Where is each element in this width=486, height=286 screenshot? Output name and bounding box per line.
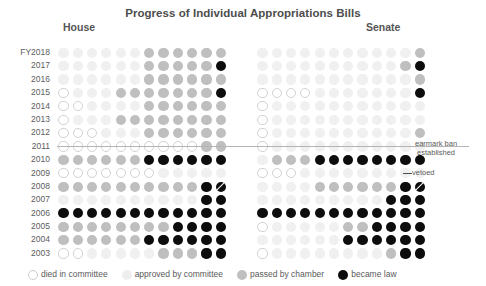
bill-cell[interactable] — [299, 233, 313, 246]
bill-cell[interactable] — [299, 153, 313, 166]
bill-cell[interactable] — [313, 207, 327, 220]
bill-cell[interactable] — [370, 207, 384, 220]
bill-cell[interactable] — [143, 247, 157, 260]
bill-cell[interactable] — [186, 86, 200, 99]
bill-cell[interactable] — [200, 153, 214, 166]
bill-cell[interactable] — [157, 46, 171, 59]
bill-cell[interactable] — [157, 220, 171, 233]
bill-cell[interactable] — [171, 193, 185, 206]
bill-cell[interactable] — [356, 86, 370, 99]
bill-cell[interactable] — [313, 113, 327, 126]
bill-cell[interactable] — [71, 193, 85, 206]
bill-cell[interactable] — [256, 86, 270, 99]
bill-cell[interactable] — [342, 126, 356, 139]
bill-cell[interactable] — [385, 73, 399, 86]
bill-cell[interactable] — [128, 207, 142, 220]
bill-cell[interactable] — [157, 153, 171, 166]
bill-cell[interactable] — [57, 46, 71, 59]
bill-cell[interactable] — [270, 153, 284, 166]
bill-cell[interactable] — [186, 46, 200, 59]
bill-cell[interactable] — [256, 180, 270, 193]
bill-cell[interactable] — [413, 113, 427, 126]
bill-cell[interactable] — [114, 180, 128, 193]
bill-cell[interactable] — [128, 59, 142, 72]
bill-cell[interactable] — [171, 153, 185, 166]
bill-cell[interactable] — [313, 73, 327, 86]
bill-cell[interactable] — [114, 153, 128, 166]
bill-cell[interactable] — [399, 247, 413, 260]
bill-cell[interactable] — [285, 126, 299, 139]
bill-cell[interactable] — [327, 126, 341, 139]
bill-cell[interactable] — [100, 233, 114, 246]
bill-cell[interactable] — [327, 113, 341, 126]
bill-cell[interactable] — [214, 86, 228, 99]
bill-cell[interactable] — [370, 86, 384, 99]
bill-cell[interactable] — [143, 59, 157, 72]
bill-cell[interactable] — [299, 126, 313, 139]
bill-cell[interactable] — [114, 86, 128, 99]
bill-cell[interactable] — [86, 180, 100, 193]
bill-cell[interactable] — [342, 153, 356, 166]
bill-cell[interactable] — [200, 86, 214, 99]
bill-cell[interactable] — [399, 100, 413, 113]
bill-cell[interactable] — [100, 247, 114, 260]
bill-cell[interactable] — [256, 193, 270, 206]
bill-cell[interactable] — [342, 193, 356, 206]
bill-cell[interactable] — [313, 167, 327, 180]
bill-cell[interactable] — [313, 46, 327, 59]
bill-cell[interactable] — [342, 180, 356, 193]
bill-cell[interactable] — [71, 220, 85, 233]
bill-cell[interactable] — [114, 46, 128, 59]
bill-cell[interactable] — [171, 247, 185, 260]
bill-cell[interactable] — [57, 126, 71, 139]
bill-cell[interactable] — [313, 86, 327, 99]
bill-cell[interactable] — [356, 153, 370, 166]
bill-cell[interactable] — [327, 167, 341, 180]
bill-cell[interactable] — [71, 113, 85, 126]
bill-cell[interactable] — [413, 207, 427, 220]
bill-cell[interactable] — [270, 220, 284, 233]
bill-cell[interactable] — [71, 73, 85, 86]
bill-cell[interactable] — [385, 100, 399, 113]
bill-cell[interactable] — [285, 220, 299, 233]
bill-cell[interactable] — [186, 73, 200, 86]
bill-cell[interactable] — [171, 126, 185, 139]
bill-cell[interactable] — [299, 73, 313, 86]
bill-cell[interactable] — [171, 100, 185, 113]
bill-cell[interactable] — [128, 86, 142, 99]
bill-cell[interactable] — [327, 180, 341, 193]
bill-cell[interactable] — [356, 100, 370, 113]
bill-cell[interactable] — [100, 86, 114, 99]
bill-cell[interactable] — [270, 180, 284, 193]
bill-cell[interactable] — [285, 100, 299, 113]
bill-cell[interactable] — [114, 73, 128, 86]
bill-cell[interactable] — [100, 193, 114, 206]
bill-cell[interactable] — [171, 113, 185, 126]
bill-cell[interactable] — [57, 153, 71, 166]
bill-cell[interactable] — [342, 247, 356, 260]
bill-cell[interactable] — [356, 46, 370, 59]
bill-cell[interactable] — [57, 207, 71, 220]
bill-cell[interactable] — [413, 59, 427, 72]
bill-cell[interactable] — [370, 247, 384, 260]
bill-cell[interactable] — [385, 153, 399, 166]
bill-cell[interactable] — [370, 100, 384, 113]
bill-cell[interactable] — [299, 86, 313, 99]
bill-cell[interactable] — [214, 193, 228, 206]
bill-cell[interactable] — [114, 220, 128, 233]
bill-cell[interactable] — [327, 46, 341, 59]
bill-cell[interactable] — [200, 180, 214, 193]
bill-cell[interactable] — [342, 46, 356, 59]
bill-cell[interactable] — [86, 113, 100, 126]
bill-cell[interactable] — [71, 207, 85, 220]
bill-cell[interactable] — [114, 167, 128, 180]
bill-cell[interactable] — [86, 233, 100, 246]
bill-cell[interactable] — [370, 180, 384, 193]
bill-cell[interactable] — [299, 207, 313, 220]
bill-cell[interactable] — [285, 59, 299, 72]
bill-cell[interactable] — [370, 59, 384, 72]
bill-cell[interactable] — [399, 153, 413, 166]
bill-cell[interactable] — [313, 180, 327, 193]
bill-cell[interactable] — [100, 207, 114, 220]
bill-cell[interactable] — [143, 180, 157, 193]
